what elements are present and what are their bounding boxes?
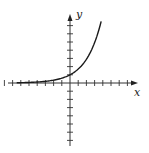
x-axis-arrow-icon — [131, 81, 138, 86]
x-axis-label: x — [134, 86, 141, 99]
exponential-graph: y x — [0, 0, 149, 153]
y-axis-label: y — [75, 8, 83, 21]
exponential-curve — [17, 21, 101, 82]
y-axis-arrow-icon — [68, 14, 73, 21]
